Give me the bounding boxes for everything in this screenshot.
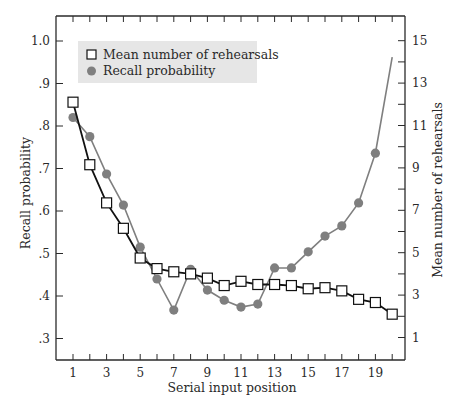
y-right-tick-label: 9 [412,161,420,175]
x-tick-label: 17 [334,366,349,380]
y-right-tick-label: 7 [412,203,420,217]
x-tick-label: 5 [136,366,144,380]
rehearsal-point [270,280,280,290]
recall-point [85,132,94,141]
x-tick-label: 1 [69,366,77,380]
rehearsal-point [186,269,196,279]
y-axis-left-title: Recall probability [18,136,33,249]
x-tick-label: 7 [170,366,178,380]
rehearsal-point [286,281,296,291]
recall-point [220,296,229,305]
legend-item-recall: Recall probability [87,63,216,78]
recall-point [371,149,380,158]
recall-point [169,305,178,314]
recall-point [119,200,128,209]
x-axis-title: Serial input position [168,380,297,395]
rehearsal-point [253,280,263,290]
rehearsal-point [152,264,162,274]
x-tick-label: 3 [103,366,111,380]
rehearsal-point [370,298,380,308]
y-right-tick-label: 15 [412,34,427,48]
recall-line [73,57,392,310]
recall-point [152,274,161,283]
recall-point [320,231,329,240]
y-right-tick-label: 5 [412,246,420,260]
x-tick-label: 9 [204,366,212,380]
y-right-tick-label: 3 [412,288,420,302]
y-axis-left-ticks: 1.0.9.8.7.6.5.4.3 [31,34,63,346]
rehearsal-point [337,286,347,296]
recall-point [203,285,212,294]
recall-point [253,299,262,308]
recall-point [270,263,279,272]
y-left-tick-label: .3 [39,332,50,346]
rehearsal-point [320,283,330,293]
rehearsal-point [354,294,364,304]
recall-point [287,263,296,272]
y-right-tick-label: 13 [412,76,427,90]
y-left-tick-label: .5 [39,247,50,261]
y-right-tick-label: 1 [412,331,420,345]
serial-position-chart: 135791113151719 1.0.9.8.7.6.5.4.3 151311… [0,0,457,412]
recall-point [136,243,145,252]
y-left-tick-label: .6 [39,204,50,218]
recall-point [337,221,346,230]
y-left-tick-label: 1.0 [31,34,50,48]
y-left-tick-label: .7 [39,162,50,176]
rehearsal-point [169,267,179,277]
rehearsal-point [102,198,112,208]
rehearsal-point [236,276,246,286]
recall-probability-series [68,57,392,314]
rehearsal-point [118,223,128,233]
y-axis-right-ticks: 15131197531 [398,34,427,345]
x-tick-label: 15 [301,366,316,380]
open-square-icon [87,50,96,59]
recall-point [236,302,245,311]
rehearsal-point [219,281,229,291]
filled-circle-icon [87,67,96,76]
recall-point [304,247,313,256]
x-tick-label: 13 [267,366,282,380]
rehearsal-point [85,160,95,170]
rehearsal-point [68,97,78,107]
legend-item-rehearsals: Mean number of rehearsals [87,47,279,62]
y-left-tick-label: .9 [39,77,50,91]
recall-point [354,198,363,207]
y-right-tick-label: 11 [412,119,427,133]
recall-point [102,169,111,178]
legend-label-rehearsals: Mean number of rehearsals [103,47,279,62]
x-tick-label: 19 [368,366,383,380]
y-left-tick-label: .8 [39,119,50,133]
y-left-tick-label: .4 [39,289,51,303]
x-tick-label: 11 [233,366,248,380]
rehearsals-series [68,97,397,319]
legend-label-recall: Recall probability [103,63,216,78]
rehearsal-point [387,309,397,319]
rehearsal-point [303,284,313,294]
rehearsal-point [135,253,145,263]
rehearsal-point [202,273,212,283]
y-axis-right-title: Mean number of rehearsals [430,102,445,278]
